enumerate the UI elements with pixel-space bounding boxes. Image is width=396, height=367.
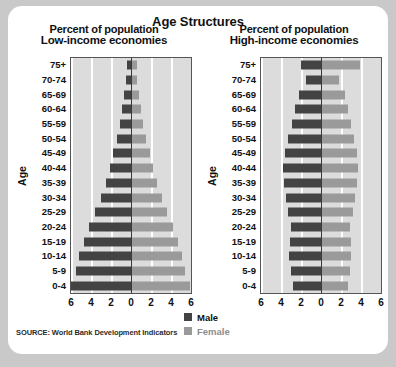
bar-female-30-34 [321, 193, 355, 202]
bar-female-50-54 [131, 134, 146, 143]
y-axis-tick-40-44: 40-44 [232, 162, 256, 173]
y-axis-tick-5-9: 5-9 [242, 264, 256, 275]
x-axis-tick: 0 [318, 297, 324, 308]
bar-female-45-49 [321, 149, 357, 158]
plot-area-low-income [70, 57, 192, 294]
bar-male-65-69 [124, 90, 131, 99]
y-axis-tick-65-69: 65-69 [232, 88, 256, 99]
y-axis-tick-40-44: 40-44 [42, 162, 66, 173]
plot-area-high-income [260, 57, 382, 294]
x-axis-tick: 2 [148, 297, 154, 308]
bar-male-5-9 [291, 266, 321, 275]
legend-label-female: Female [197, 326, 230, 337]
y-axis-tick-70-74: 70-74 [42, 74, 66, 85]
x-axis-tick: 6 [68, 297, 74, 308]
center-axis-line [321, 58, 322, 293]
gridline [281, 58, 283, 293]
bar-female-40-44 [321, 164, 358, 173]
bar-male-10-14 [289, 252, 321, 261]
y-axis-tick-labels-left: 0-45-910-1415-1920-2425-2930-3435-3940-4… [26, 54, 68, 297]
bar-male-15-19 [84, 237, 131, 246]
bar-male-60-64 [122, 105, 131, 114]
y-axis-tick-0-4: 0-4 [242, 279, 256, 290]
bar-male-5-9 [76, 266, 131, 275]
y-axis-tick-30-34: 30-34 [42, 191, 66, 202]
y-axis-tick-70-74: 70-74 [232, 74, 256, 85]
bar-female-35-39 [321, 178, 357, 187]
bar-female-75plus [321, 61, 360, 70]
y-axis-tick-55-59: 55-59 [42, 118, 66, 129]
x-axis-tick: 6 [258, 297, 264, 308]
x-axis-tick: 4 [358, 297, 364, 308]
y-axis-tick-50-54: 50-54 [232, 132, 256, 143]
bar-male-50-54 [288, 134, 321, 143]
chart-figure: Age Structures Low-income economies High… [8, 6, 388, 354]
x-axis-tick: 4 [168, 297, 174, 308]
bar-female-65-69 [321, 90, 345, 99]
y-axis-tick-10-14: 10-14 [232, 250, 256, 261]
bar-male-20-24 [89, 222, 131, 231]
bar-male-65-69 [299, 90, 321, 99]
panel-title-high-income: High-income economies [204, 34, 384, 46]
x-axis-label-left: Percent of population [14, 23, 194, 35]
bar-female-25-29 [321, 208, 353, 217]
bar-male-10-14 [79, 252, 131, 261]
x-axis-ticks-left: 6420246 [70, 295, 192, 313]
bar-female-10-14 [321, 252, 351, 261]
bar-female-45-49 [131, 149, 150, 158]
bar-male-30-34 [101, 193, 131, 202]
y-axis-tick-0-4: 0-4 [52, 279, 66, 290]
gridline [381, 58, 382, 293]
x-axis-tick: 4 [278, 297, 284, 308]
bar-female-20-24 [131, 222, 173, 231]
bar-male-55-59 [292, 120, 321, 129]
bar-male-40-44 [283, 164, 321, 173]
gridline [261, 58, 263, 293]
source-note: SOURCE: World Bank Development Indicator… [16, 328, 177, 337]
x-axis-ticks-right: 6420246 [260, 295, 382, 313]
bar-female-0-4 [131, 281, 190, 290]
bar-female-60-64 [131, 105, 141, 114]
gridline [191, 58, 192, 293]
bar-male-55-59 [120, 120, 131, 129]
bar-male-40-44 [110, 164, 131, 173]
y-axis-tick-45-49: 45-49 [42, 147, 66, 158]
x-axis-tick: 4 [88, 297, 94, 308]
y-axis-tick-75plus: 75+ [240, 59, 256, 70]
bar-male-25-29 [95, 208, 131, 217]
x-axis-tick: 0 [128, 297, 134, 308]
y-axis-tick-15-19: 15-19 [232, 235, 256, 246]
bar-female-30-34 [131, 193, 162, 202]
bar-male-0-4 [71, 281, 131, 290]
legend-label-male: Male [197, 312, 218, 323]
center-axis-line [131, 58, 132, 293]
gridline [361, 58, 363, 293]
y-axis-tick-20-24: 20-24 [232, 220, 256, 231]
bar-female-55-59 [131, 120, 143, 129]
bar-male-50-54 [117, 134, 131, 143]
legend-item-female: Female [184, 325, 264, 337]
bar-female-55-59 [321, 120, 351, 129]
y-axis-tick-45-49: 45-49 [232, 147, 256, 158]
bar-female-5-9 [131, 266, 185, 275]
bar-female-10-14 [131, 252, 182, 261]
bar-female-70-74 [321, 76, 339, 85]
bar-male-25-29 [288, 208, 321, 217]
y-axis-tick-35-39: 35-39 [232, 176, 256, 187]
y-axis-tick-75plus: 75+ [50, 59, 66, 70]
bar-male-35-39 [106, 178, 131, 187]
y-axis-tick-15-19: 15-19 [42, 235, 66, 246]
y-axis-tick-5-9: 5-9 [52, 264, 66, 275]
bar-male-75plus [301, 61, 321, 70]
y-axis-tick-35-39: 35-39 [42, 176, 66, 187]
bar-female-0-4 [321, 281, 348, 290]
y-axis-tick-50-54: 50-54 [42, 132, 66, 143]
bar-male-35-39 [284, 178, 321, 187]
y-axis-tick-65-69: 65-69 [42, 88, 66, 99]
y-axis-tick-labels-right: 0-45-910-1415-1920-2425-2930-3435-3940-4… [216, 54, 258, 297]
x-axis-tick: 2 [298, 297, 304, 308]
bar-female-35-39 [131, 178, 157, 187]
y-axis-tick-60-64: 60-64 [42, 103, 66, 114]
bar-female-40-44 [131, 164, 153, 173]
bar-female-60-64 [321, 105, 348, 114]
